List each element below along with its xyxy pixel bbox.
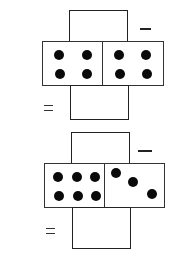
pip: [142, 69, 152, 79]
pip: [82, 50, 92, 60]
answer-box-top[interactable]: [71, 132, 130, 164]
domino: [42, 41, 164, 86]
equals-sign: [44, 105, 53, 111]
minus-sign: [140, 28, 151, 30]
pip: [54, 191, 64, 201]
pip: [91, 191, 101, 201]
answer-box-top[interactable]: [69, 10, 128, 42]
pip: [54, 50, 64, 60]
answer-box-bottom[interactable]: [72, 207, 131, 249]
answer-box-bottom[interactable]: [70, 85, 129, 120]
pip: [82, 69, 92, 79]
pip: [128, 177, 138, 187]
pip: [55, 69, 65, 79]
pip: [114, 50, 124, 60]
domino: [44, 163, 165, 208]
domino-divider: [102, 42, 103, 85]
pip: [111, 168, 121, 178]
pip: [90, 172, 100, 182]
pip: [115, 69, 125, 79]
pip: [141, 50, 151, 60]
pip: [53, 172, 63, 182]
minus-sign: [138, 150, 152, 152]
pip: [73, 191, 83, 201]
equals-sign: [46, 228, 55, 234]
pip: [147, 189, 157, 199]
domino-divider: [104, 164, 105, 207]
pip: [72, 172, 82, 182]
